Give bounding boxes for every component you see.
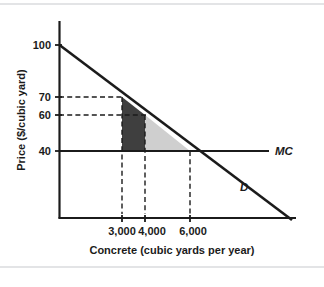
demand-curve-label: D xyxy=(240,181,248,193)
x-tick-label-3000: 3,000 xyxy=(108,225,136,237)
figure-root: 100 70 60 40 3,000 4,000 6,000 Price ($/… xyxy=(0,0,324,287)
y-tick-label-60: 60 xyxy=(39,109,51,121)
light-shaded-region xyxy=(145,115,190,151)
x-axis-title: Concrete (cubic yards per year) xyxy=(89,244,254,256)
y-tick-label-70: 70 xyxy=(39,91,51,103)
x-tick-label-4000: 4,000 xyxy=(138,225,166,237)
x-tick-label-6000: 6,000 xyxy=(179,225,207,237)
dark-shaded-region xyxy=(122,97,145,151)
y-tick-label-100: 100 xyxy=(33,39,51,51)
y-axis-title: Price ($/cubic yard) xyxy=(15,69,27,171)
y-tick-label-40: 40 xyxy=(39,145,51,157)
mc-curve-label: MC xyxy=(275,145,294,157)
economics-chart: 100 70 60 40 3,000 4,000 6,000 Price ($/… xyxy=(0,0,324,287)
demand-curve xyxy=(60,45,293,220)
